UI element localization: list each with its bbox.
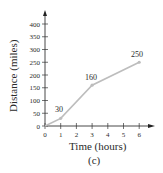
y-tick-label: 50 bbox=[33, 110, 41, 118]
data-point-marker bbox=[91, 84, 94, 87]
figure-caption: (c) bbox=[88, 154, 101, 167]
data-label-30: 30 bbox=[55, 105, 63, 114]
x-tick-label: 2 bbox=[75, 131, 79, 139]
x-tick-label: 6 bbox=[137, 131, 141, 139]
data-label-250: 250 bbox=[131, 50, 143, 59]
distance-line bbox=[45, 62, 139, 126]
y-tick-label: 150 bbox=[30, 84, 41, 92]
x-axis-ticks: 0123456 bbox=[43, 123, 141, 139]
x-tick-label: 4 bbox=[106, 131, 110, 139]
x-tick-label: 1 bbox=[59, 131, 63, 139]
y-axis-label: Distance (miles) bbox=[7, 39, 20, 112]
y-tick-label: 300 bbox=[30, 46, 41, 54]
y-tick-label: 400 bbox=[30, 21, 41, 29]
y-tick-label: 250 bbox=[30, 59, 41, 67]
x-tick-label: 0 bbox=[43, 131, 47, 139]
x-tick-label: 5 bbox=[122, 131, 126, 139]
data-points bbox=[59, 61, 141, 120]
y-tick-label: 100 bbox=[30, 97, 41, 105]
data-label-160: 160 bbox=[85, 73, 97, 82]
data-point-marker bbox=[138, 61, 141, 64]
x-axis-label: Time (hours) bbox=[69, 140, 127, 153]
x-tick-label: 3 bbox=[90, 131, 94, 139]
y-tick-label: 350 bbox=[30, 33, 41, 41]
y-axis-arrow-icon bbox=[43, 10, 47, 16]
data-point-marker bbox=[59, 117, 62, 120]
distance-time-chart: 050100150200250300350400 0123456 30 160 … bbox=[0, 0, 163, 173]
y-tick-label: 0 bbox=[37, 123, 41, 131]
x-axis-arrow-icon bbox=[148, 124, 155, 128]
y-tick-label: 200 bbox=[30, 72, 41, 80]
